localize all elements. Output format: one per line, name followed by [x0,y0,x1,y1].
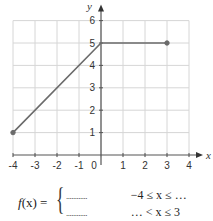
svg-text:-1: -1 [75,160,84,171]
svg-text:1: 1 [89,127,95,138]
svg-text:3: 3 [164,160,170,171]
condition-2: … < x ≤ 3 [131,205,180,220]
y-axis-label: y [86,0,92,12]
piecewise-formula: f(x) = { ............ −4 ≤ x ≤ … .......… [18,186,208,220]
blank-expression-1: ............ [66,191,122,201]
svg-text:6: 6 [89,15,95,26]
svg-text:4: 4 [186,160,192,171]
formula-row-1: ............ −4 ≤ x ≤ … [66,188,187,203]
brace: { [56,183,64,215]
blank-expression-2: ............ [66,208,122,218]
svg-text:-3: -3 [31,160,40,171]
svg-text:4: 4 [89,60,95,71]
formula-row-2: ............ … < x ≤ 3 [66,205,180,220]
svg-text:0: 0 [91,160,97,171]
tick-labels: -4-3-2-101234123456 [9,15,193,171]
svg-text:5: 5 [89,38,95,49]
svg-text:1: 1 [120,160,126,171]
axes [13,5,203,165]
svg-text:3: 3 [89,82,95,93]
svg-text:2: 2 [142,160,148,171]
svg-text:-2: -2 [53,160,62,171]
x-axis-label: x [205,149,211,161]
graph: -4-3-2-101234123456 x y [0,0,213,185]
svg-text:2: 2 [89,105,95,116]
function-name: f(x) = [18,195,47,211]
svg-text:-4: -4 [9,160,18,171]
condition-1: −4 ≤ x ≤ … [131,188,187,203]
